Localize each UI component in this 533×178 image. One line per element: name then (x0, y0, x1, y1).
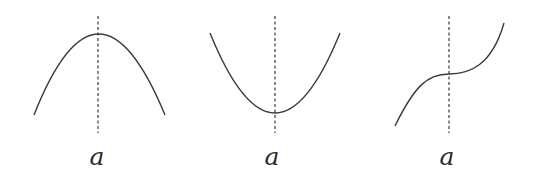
critical-points-diagram: a a a (0, 0, 533, 178)
panel-local-maximum: a (34, 16, 165, 171)
maximum-curve (34, 34, 165, 115)
point-label: a (90, 142, 105, 171)
panel-inflection-point: a (395, 16, 504, 171)
point-label: a (440, 142, 455, 171)
panel-local-minimum: a (210, 16, 340, 171)
point-label: a (265, 142, 280, 171)
